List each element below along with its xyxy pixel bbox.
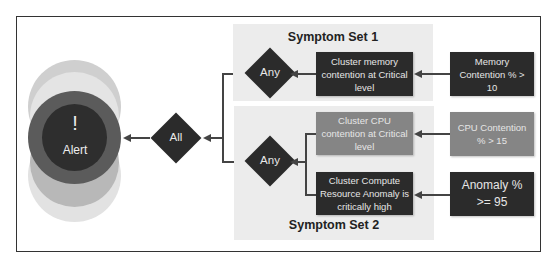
metric-cpu: CPU Contention % > 15: [450, 112, 534, 156]
connector-metric-anomaly: [421, 194, 450, 196]
any-gate-2-label: Any: [245, 154, 295, 166]
connector-anomaly-any2: [305, 194, 316, 196]
all-gate-label: All: [151, 131, 201, 143]
connector-mem-any1: [296, 73, 316, 75]
arrow-icon: [414, 130, 422, 138]
arrow-icon: [290, 158, 298, 166]
alert-label: Alert: [45, 143, 105, 157]
connector-metric-cpu: [421, 133, 450, 135]
alert-exclamation-icon: !: [45, 112, 105, 135]
metric-anomaly: Anomaly % >= 95: [450, 172, 534, 216]
metric-memory: Memory Contention % > 10: [450, 52, 534, 96]
any-gate-1-label: Any: [245, 66, 295, 78]
connector-all-alert: [130, 137, 150, 139]
arrow-icon: [290, 70, 298, 78]
connector-cpu-any2: [305, 133, 316, 135]
symptom-anomaly: Cluster Compute Resource Anomaly is crit…: [316, 172, 413, 215]
arrow-icon: [414, 70, 422, 78]
connector-any2-vertical: [305, 133, 307, 195]
symptom-cpu: Cluster CPU contention at Critical level: [316, 112, 413, 155]
symptom-set-2-title: Symptom Set 2: [234, 218, 434, 232]
arrow-icon: [123, 134, 131, 142]
connector-metric-mem: [421, 73, 450, 75]
arrow-icon: [414, 191, 422, 199]
arrow-icon: [203, 134, 211, 142]
symptom-memory: Cluster memory contention at Critical le…: [316, 52, 413, 96]
symptom-set-1-title: Symptom Set 1: [233, 30, 433, 44]
connector-vertical: [222, 73, 224, 162]
